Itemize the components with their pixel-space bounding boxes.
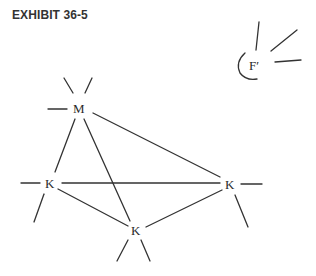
k-left-stub-down [34,194,44,222]
edge-m-k-left [55,119,75,172]
node-k-left-label: K [45,176,55,191]
node-m-label: M [73,101,85,116]
f-prime-stub-up [256,22,259,50]
f-prime-stub-right [275,60,301,62]
node-m: M [48,78,92,116]
edge-k-right-k-bottom [146,190,222,227]
k-bottom-stub-downleft [117,240,128,261]
k-bottom-stub-downright [141,240,150,261]
edge-m-k-right [93,113,220,177]
m-stub-upright [85,78,92,93]
node-f-prime: F′ [238,22,301,79]
node-k-bottom: K [117,223,150,261]
k-right-stub-down [235,195,248,227]
node-f-prime-label: F′ [249,58,259,73]
bond-diagram: M K K K F′ [0,0,316,276]
node-k-right: K [225,177,262,227]
node-k-right-label: K [225,177,235,192]
f-prime-stub-upright [271,30,297,51]
node-k-bottom-label: K [131,223,141,238]
edges [55,113,222,227]
node-k-left: K [21,176,55,222]
m-stub-upleft [64,78,73,93]
